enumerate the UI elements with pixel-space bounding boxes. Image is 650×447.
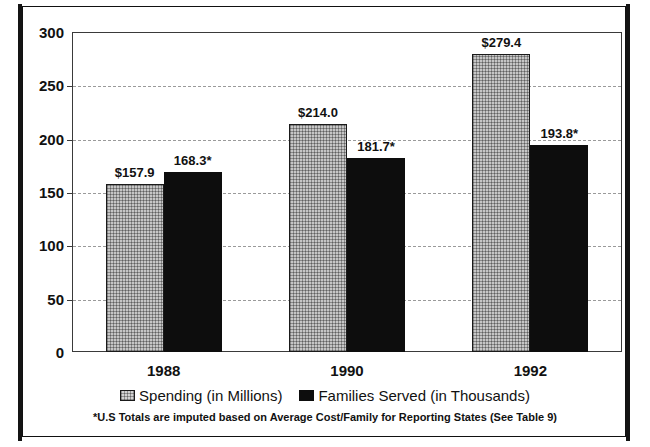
bar-spending-1990 xyxy=(289,124,347,352)
x-axis-label-1990: 1990 xyxy=(330,362,363,379)
legend-label-spending: Spending (in Millions) xyxy=(139,387,282,404)
legend-swatch-families-served-icon xyxy=(299,390,314,401)
bar-families-served-1992 xyxy=(530,145,588,352)
bar-value-label: 168.3* xyxy=(174,153,212,168)
chart-footnote: *U.S Totals are imputed based on Average… xyxy=(0,411,650,423)
legend-item-families-served: Families Served (in Thousands) xyxy=(299,387,529,404)
bar-spending-1992 xyxy=(472,54,530,352)
y-axis-tick-label: 200 xyxy=(14,130,64,147)
y-axis-tick-label: 0 xyxy=(14,344,64,361)
y-axis-tick xyxy=(67,246,73,247)
gridline xyxy=(73,86,621,87)
y-axis-tick xyxy=(67,86,73,87)
legend-item-spending: Spending (in Millions) xyxy=(120,387,282,404)
bar-spending-1988 xyxy=(106,184,164,352)
x-axis-label-1992: 1992 xyxy=(514,362,547,379)
x-axis-label-1988: 1988 xyxy=(147,362,180,379)
y-axis-tick-label: 50 xyxy=(14,290,64,307)
y-axis-tick-label: 100 xyxy=(14,237,64,254)
legend-label-families-served: Families Served (in Thousands) xyxy=(318,387,529,404)
legend-swatch-spending-icon xyxy=(120,390,135,401)
bar-value-label: $279.4 xyxy=(481,35,521,50)
y-axis-tick-label: 150 xyxy=(14,184,64,201)
bar-value-label: $214.0 xyxy=(298,105,338,120)
y-axis-tick xyxy=(67,300,73,301)
chart-legend: Spending (in Millions) Families Served (… xyxy=(0,387,650,404)
bar-families-served-1988 xyxy=(164,172,222,352)
y-axis-tick xyxy=(67,193,73,194)
y-axis-tick-label: 300 xyxy=(14,24,64,41)
bar-chart: 050100150200250300 $157.9168.3*$214.0181… xyxy=(0,0,650,447)
y-axis-tick xyxy=(67,140,73,141)
bar-families-served-1990 xyxy=(347,158,405,352)
gridline xyxy=(73,140,621,141)
bar-value-label: $157.9 xyxy=(115,165,155,180)
bar-value-label: 193.8* xyxy=(541,126,579,141)
y-axis-tick-label: 250 xyxy=(14,77,64,94)
bar-value-label: 181.7* xyxy=(357,139,395,154)
